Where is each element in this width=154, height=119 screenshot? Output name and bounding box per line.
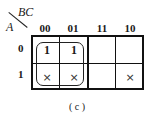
cell-a0-bc10 [116,37,144,63]
column-header: 11 [88,22,116,34]
cell-a1-bc10: × [116,64,144,90]
cell-a1-bc11 [88,64,116,90]
row-header: 1 [18,68,24,80]
column-header: 10 [116,22,144,34]
row-header: 0 [18,42,24,54]
grouping-loop [36,42,84,86]
figure-caption: ( c ) [0,101,154,112]
cell-a0-bc11 [88,37,116,63]
column-variable-label: BC [18,5,33,20]
column-header: 01 [59,22,87,34]
column-header: 00 [31,22,59,34]
row-variable-label: A [6,20,13,35]
